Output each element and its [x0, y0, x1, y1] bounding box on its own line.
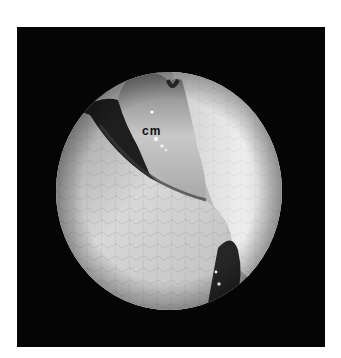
endoscopic-view [0, 0, 341, 358]
label-cm: cm [142, 124, 161, 138]
